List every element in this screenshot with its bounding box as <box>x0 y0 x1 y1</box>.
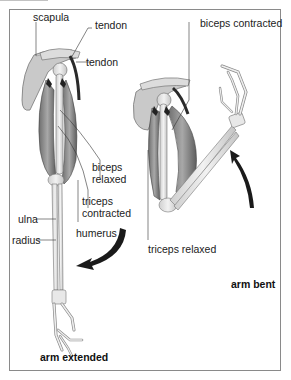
label-biceps: biceps <box>92 162 122 173</box>
label-contracted: contracted <box>82 208 131 219</box>
arm-bent-illustration <box>133 66 246 212</box>
label-ulna: ulna <box>18 214 38 225</box>
label-scapula: scapula <box>33 12 69 23</box>
caption-arm-bent: arm bent <box>231 278 275 290</box>
caption-arm-extended: arm extended <box>40 351 108 363</box>
arm-extended-illustration <box>22 49 82 356</box>
curved-up-arrow <box>230 150 254 208</box>
label-radius: radius <box>12 235 41 246</box>
label-relaxed: relaxed <box>92 174 126 185</box>
label-biceps-contracted: biceps contracted <box>200 18 282 29</box>
triceps-shape-bent <box>148 108 160 200</box>
arm-illustration <box>0 0 291 380</box>
triceps-shape-extended <box>39 80 56 178</box>
label-tendon-lower: tendon <box>86 57 118 68</box>
biceps-shape-extended <box>62 80 77 184</box>
label-triceps: triceps <box>82 196 113 207</box>
label-triceps-relaxed: triceps relaxed <box>148 244 216 255</box>
label-humerus: humerus <box>76 228 117 239</box>
label-tendon-upper: tendon <box>95 20 127 31</box>
